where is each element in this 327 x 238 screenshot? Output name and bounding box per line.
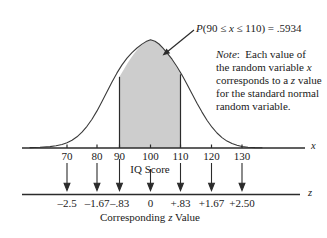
- x-axis-caption: IQ Score: [130, 163, 169, 176]
- z-axis-variable-label: z: [308, 187, 312, 199]
- note-line-2: the random variable x: [216, 61, 327, 74]
- probability-annotation: P(90 ≤ x ≤ 110) = .5934: [196, 22, 302, 35]
- x-tick-label: 90: [114, 150, 125, 163]
- z-tick-label: –2.5: [57, 197, 76, 210]
- x-tick-label: 100: [142, 150, 159, 163]
- connector-arrow: [94, 163, 100, 191]
- note-label: Note: [216, 48, 237, 60]
- x-tick-label: 120: [203, 150, 220, 163]
- x-tick-label: 80: [92, 150, 103, 163]
- z-tick-label: 0: [148, 197, 154, 210]
- note-line-1: Each value of: [245, 48, 305, 60]
- z-caption-part-1: Corresponding: [100, 211, 168, 223]
- z-tick-label: –.83: [110, 197, 129, 210]
- connector-arrow: [117, 159, 123, 191]
- x-tick-label: 130: [234, 150, 251, 163]
- x-tick-label: 110: [172, 150, 188, 163]
- z-tick-label: –1.67: [85, 197, 110, 210]
- connector-arrow: [178, 163, 184, 191]
- connector-arrow: [239, 163, 245, 191]
- x-tick-label: 70: [62, 150, 73, 163]
- z-tick-label: +2.50: [229, 197, 254, 210]
- z-caption-part-3: Value: [172, 211, 200, 223]
- note-line-4: for the standard normal: [216, 87, 327, 100]
- z-tick-label: +1.67: [199, 197, 224, 210]
- note-line-5: random variable.: [216, 100, 327, 113]
- z-tick-label: +.83: [171, 197, 191, 210]
- normal-distribution-figure: P(90 ≤ x ≤ 110) = .5934 Note: Each value…: [0, 0, 327, 238]
- probability-pointer-arrow: [163, 30, 195, 56]
- note-colon: :: [237, 48, 240, 60]
- x-axis-variable-label: x: [311, 140, 316, 152]
- connector-arrow: [64, 163, 70, 191]
- note-line-3: corresponds to a z value: [216, 74, 327, 87]
- distribution-plot: [0, 0, 327, 238]
- note-block: Note: Each value of the random variable …: [216, 48, 327, 113]
- connector-arrow: [209, 163, 215, 191]
- z-axis-caption: Corresponding z Value: [100, 211, 200, 224]
